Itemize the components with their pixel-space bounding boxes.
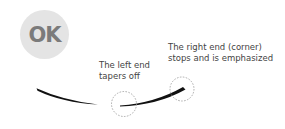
right-stroke: [120, 87, 186, 106]
left-end-marker-circle: [112, 92, 137, 117]
stroke-diagram: [0, 0, 285, 129]
left-stroke: [37, 88, 99, 104]
